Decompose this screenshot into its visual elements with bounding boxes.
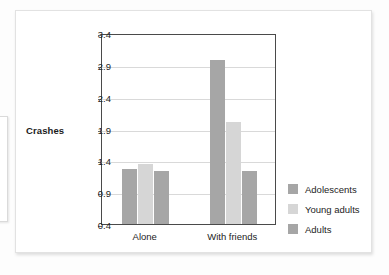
legend-item: Young adults [288, 199, 360, 219]
x-tick-label: Alone [133, 231, 157, 242]
legend-item: Adolescents [288, 179, 360, 199]
y-axis-title: Crashes [26, 125, 64, 136]
legend-label: Young adults [305, 204, 360, 215]
page-root: Crashes 0.40.91.41.92.42.93.4 AloneWith … [0, 0, 389, 275]
chart-card: Crashes 0.40.91.41.92.42.93.4 AloneWith … [15, 10, 372, 253]
bar [138, 164, 153, 224]
legend-swatch [288, 224, 298, 234]
gridline [102, 162, 275, 163]
legend-label: Adults [305, 224, 331, 235]
legend-item: Adults [288, 219, 360, 239]
gridline [102, 99, 275, 100]
legend-label: Adolescents [305, 184, 357, 195]
bar [226, 122, 241, 224]
bar-chart: Crashes 0.40.91.41.92.42.93.4 AloneWith … [16, 11, 373, 254]
legend-swatch [288, 184, 298, 194]
y-tick-label: 2.4 [69, 92, 111, 103]
bar [210, 60, 225, 224]
bar [122, 169, 137, 224]
y-tick-label: 3.4 [69, 29, 111, 40]
chart-legend: AdolescentsYoung adultsAdults [288, 179, 360, 239]
y-tick-label: 1.9 [69, 124, 111, 135]
y-tick-label: 0.9 [69, 188, 111, 199]
plot-area [101, 34, 276, 225]
legend-swatch [288, 204, 298, 214]
y-tick-label: 2.9 [69, 60, 111, 71]
bar [242, 171, 257, 224]
gridline [102, 131, 275, 132]
adjacent-card-sliver [0, 116, 8, 222]
y-tick-label: 1.4 [69, 156, 111, 167]
y-tick-label: 0.4 [69, 220, 111, 231]
gridline [102, 67, 275, 68]
x-tick-label: With friends [207, 231, 257, 242]
bar [154, 171, 169, 224]
